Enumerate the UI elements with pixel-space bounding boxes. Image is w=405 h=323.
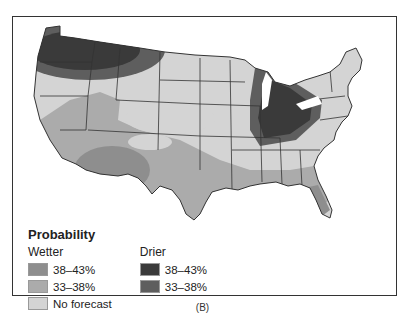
legend-item: 33–38% bbox=[140, 278, 207, 295]
legend-title: Probability bbox=[28, 227, 207, 242]
figure-caption: (B) bbox=[0, 302, 405, 313]
legend-item: 33–38% bbox=[28, 278, 112, 295]
swatch-wetter-33-38 bbox=[28, 280, 48, 293]
swatch-wetter-38-43 bbox=[28, 263, 48, 276]
swatch-drier-33-38 bbox=[140, 280, 160, 293]
legend-item: 38–43% bbox=[140, 261, 207, 278]
legend-item: 38–43% bbox=[28, 261, 112, 278]
legend-wetter-label: Wetter bbox=[28, 245, 112, 259]
swatch-drier-38-43 bbox=[140, 263, 160, 276]
legend: Probability Wetter 38–43% 33–38% No fore… bbox=[28, 227, 207, 312]
legend-drier-label: Drier bbox=[140, 245, 207, 259]
